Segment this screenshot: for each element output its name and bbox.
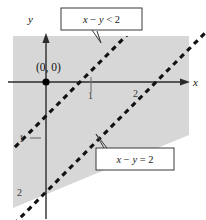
- y-tick-label-1: 1: [19, 133, 24, 144]
- inequality-graph-figure: y x (0, 0) 1 2 1 2 x − y < 2 x − y = 2: [0, 0, 206, 220]
- x-axis-label: x: [192, 76, 198, 88]
- graph-svg: y x (0, 0) 1 2 1 2 x − y < 2 x − y = 2: [0, 0, 206, 220]
- y-axis-label: y: [27, 13, 33, 25]
- region-callout-box: x − y < 2: [61, 8, 142, 30]
- x-tick-label-1: 1: [88, 90, 93, 101]
- origin-point-label: (0, 0): [36, 61, 61, 74]
- origin-point-marker: [42, 78, 49, 85]
- x-tick-label-2: 2: [133, 88, 138, 99]
- boundary-callout-box: x − y = 2: [96, 148, 174, 170]
- region-callout-text: x − y < 2: [82, 14, 120, 25]
- y-tick-label-2: 2: [17, 187, 22, 198]
- boundary-callout-text: x − y = 2: [116, 154, 154, 165]
